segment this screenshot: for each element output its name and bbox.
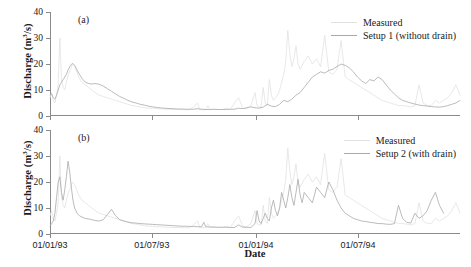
y-axis-title-a: Discharge (m3/s) bbox=[21, 1, 34, 121]
x-tick-mark bbox=[358, 234, 359, 238]
y-tick-mark bbox=[46, 130, 50, 131]
legend-row-measured-b: Measured bbox=[344, 134, 456, 147]
legend-row-measured-a: Measured bbox=[331, 16, 456, 29]
y-tick-mark bbox=[46, 38, 50, 39]
legend-b: Measured Setup 2 (with drain) bbox=[344, 134, 456, 160]
x-tick-mark bbox=[256, 116, 257, 120]
legend-swatch-setup1-icon bbox=[331, 35, 357, 36]
plot-area-b: (b) Measured Setup 2 (with drain) 010203… bbox=[50, 130, 460, 234]
y-tick-mark bbox=[46, 208, 50, 209]
y-tick-mark bbox=[46, 12, 50, 13]
x-tick-mark bbox=[152, 234, 153, 238]
panel-a: Discharge (m3/s) (a) Measured Setup 1 (w… bbox=[0, 0, 471, 122]
series-line bbox=[50, 148, 460, 228]
x-tick-mark bbox=[50, 116, 51, 120]
legend-label-setup2-b: Setup 2 (with drain) bbox=[376, 147, 456, 160]
legend-label-measured-a: Measured bbox=[363, 16, 402, 29]
x-tick-mark bbox=[358, 116, 359, 120]
legend-row-setup2-b: Setup 2 (with drain) bbox=[344, 147, 456, 160]
x-tick-mark bbox=[152, 116, 153, 120]
y-tick-mark bbox=[46, 182, 50, 183]
y-tick-mark bbox=[46, 156, 50, 157]
legend-swatch-measured-icon bbox=[344, 140, 370, 141]
y-tick-mark bbox=[46, 90, 50, 91]
figure-root: Discharge (m3/s) (a) Measured Setup 1 (w… bbox=[0, 0, 471, 267]
x-axis-title: Date bbox=[50, 248, 460, 259]
x-tick-mark bbox=[50, 234, 51, 238]
y-axis-title-b: Discharge (m3/s) bbox=[21, 118, 34, 238]
legend-label-setup1-a: Setup 1 (without drain) bbox=[363, 29, 456, 42]
series-line bbox=[50, 63, 460, 109]
x-tick-mark bbox=[256, 234, 257, 238]
legend-label-measured-b: Measured bbox=[376, 134, 415, 147]
legend-swatch-setup2-icon bbox=[344, 153, 370, 154]
panel-b: Discharge (m3/s) (b) Measured Setup 2 (w… bbox=[0, 122, 471, 234]
legend-swatch-measured-icon bbox=[331, 22, 357, 23]
series-line bbox=[50, 161, 444, 227]
legend-a: Measured Setup 1 (without drain) bbox=[331, 16, 456, 42]
y-tick-mark bbox=[46, 64, 50, 65]
plot-area-a: (a) Measured Setup 1 (without drain) 010… bbox=[50, 12, 460, 116]
legend-row-setup1-a: Setup 1 (without drain) bbox=[331, 29, 456, 42]
